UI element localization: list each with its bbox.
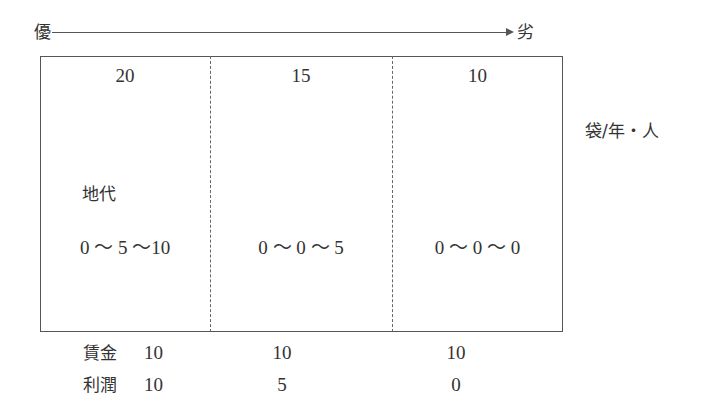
wage-value: 10 xyxy=(262,343,302,363)
yield-value: 15 xyxy=(210,66,392,86)
rent-range: 0 ～ 5 ～10 xyxy=(40,238,210,258)
land-quality-box xyxy=(40,56,563,332)
arrow-right-icon xyxy=(506,28,514,36)
rent-range: 0 ～ 0 ～ 0 xyxy=(392,238,563,258)
scale-arrow-line xyxy=(52,32,508,33)
rent-range: 0 ～ 0 ～ 5 xyxy=(210,238,392,258)
profit-label: 利潤 xyxy=(83,375,117,395)
profit-value: 0 xyxy=(436,375,476,395)
profit-value: 5 xyxy=(262,375,302,395)
yield-value: 20 xyxy=(40,66,210,86)
yield-value: 10 xyxy=(392,66,563,86)
profit-value: 10 xyxy=(144,375,163,395)
wage-label: 賃金 xyxy=(83,343,117,363)
superior-label: 優 xyxy=(34,22,51,42)
wage-value: 10 xyxy=(144,343,163,363)
column-divider xyxy=(392,56,393,332)
wage-value: 10 xyxy=(436,343,476,363)
inferior-label: 劣 xyxy=(517,22,534,42)
rent-label: 地代 xyxy=(82,184,116,204)
column-divider xyxy=(210,56,211,332)
unit-label: 袋/年・人 xyxy=(585,121,659,141)
